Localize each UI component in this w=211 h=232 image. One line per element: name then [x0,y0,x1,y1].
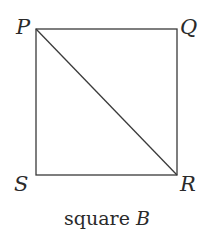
vertex-label-q: Q [180,15,197,39]
square-diagram: P Q R S square B [0,0,211,232]
caption-variable: B [135,207,150,229]
vertex-label-p: P [15,15,31,39]
diagram-caption: square B [64,207,150,229]
diagonal-pr [36,29,177,175]
caption-text: square [64,207,130,229]
vertex-label-r: R [179,172,196,196]
vertex-label-s: S [14,172,28,196]
